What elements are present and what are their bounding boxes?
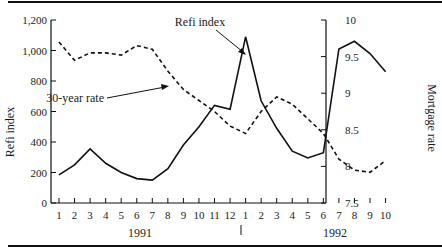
year-label-1991: 1991 — [128, 226, 152, 240]
line-refi-index — [59, 37, 386, 180]
x-tick-label: 10 — [193, 209, 205, 221]
x-tick-label: 8 — [165, 209, 171, 221]
x-tick-label: 9 — [367, 209, 373, 221]
annotation-30-year-rate: 30-year rate — [46, 91, 104, 105]
x-tick-label: 2 — [258, 209, 264, 221]
axes: 02004006008001,0001,2007.588.599.5101234… — [22, 14, 391, 221]
left-axis-label: Refi index — [3, 107, 17, 157]
x-tick-label: 10 — [380, 209, 392, 221]
x-tick-label: 4 — [290, 209, 296, 221]
x-tick-label: 3 — [87, 209, 93, 221]
x-tick-label: 8 — [352, 209, 358, 221]
left-tick-label: 0 — [42, 197, 48, 209]
x-tick-label: 7 — [150, 209, 156, 221]
left-tick-label: 800 — [31, 75, 48, 87]
arrowhead-rate-icon — [161, 84, 169, 90]
left-tick-label: 200 — [31, 167, 48, 179]
right-axis-label: Mortgage rate — [425, 84, 439, 152]
x-tick-label: 6 — [321, 209, 327, 221]
x-tick-label: 3 — [274, 209, 280, 221]
x-tick-label: 2 — [72, 209, 78, 221]
x-tick-label: 4 — [103, 209, 109, 221]
right-tick-label: 7.5 — [345, 197, 359, 209]
x-tick-label: 6 — [134, 209, 140, 221]
right-tick-label: 8.5 — [345, 124, 359, 136]
left-tick-label: 1,000 — [22, 45, 47, 57]
x-tick-label: 12 — [225, 209, 236, 221]
x-tick-label: 7 — [336, 209, 342, 221]
left-tick-label: 600 — [31, 106, 48, 118]
year-label-1992: 1992 — [323, 226, 347, 240]
left-tick-label: 1,200 — [22, 14, 47, 26]
right-tick-label: 9 — [345, 87, 351, 99]
series-lines — [59, 37, 386, 180]
left-tick-label: 400 — [31, 136, 48, 148]
x-tick-label: 1 — [56, 209, 62, 221]
annotation-refi-index: Refi index — [175, 15, 225, 29]
x-tick-label: 1 — [243, 209, 249, 221]
annotation-refi-arrow — [216, 30, 243, 52]
x-tick-label: 5 — [305, 209, 311, 221]
right-tick-label: 10 — [345, 14, 357, 26]
x-tick-label: 5 — [118, 209, 124, 221]
right-tick-label: 9.5 — [345, 51, 359, 63]
x-tick-label: 9 — [181, 209, 187, 221]
chart: 02004006008001,0001,2007.588.599.5101234… — [0, 0, 442, 248]
x-tick-label: 11 — [209, 209, 220, 221]
annotation-rate-arrow — [107, 87, 165, 98]
